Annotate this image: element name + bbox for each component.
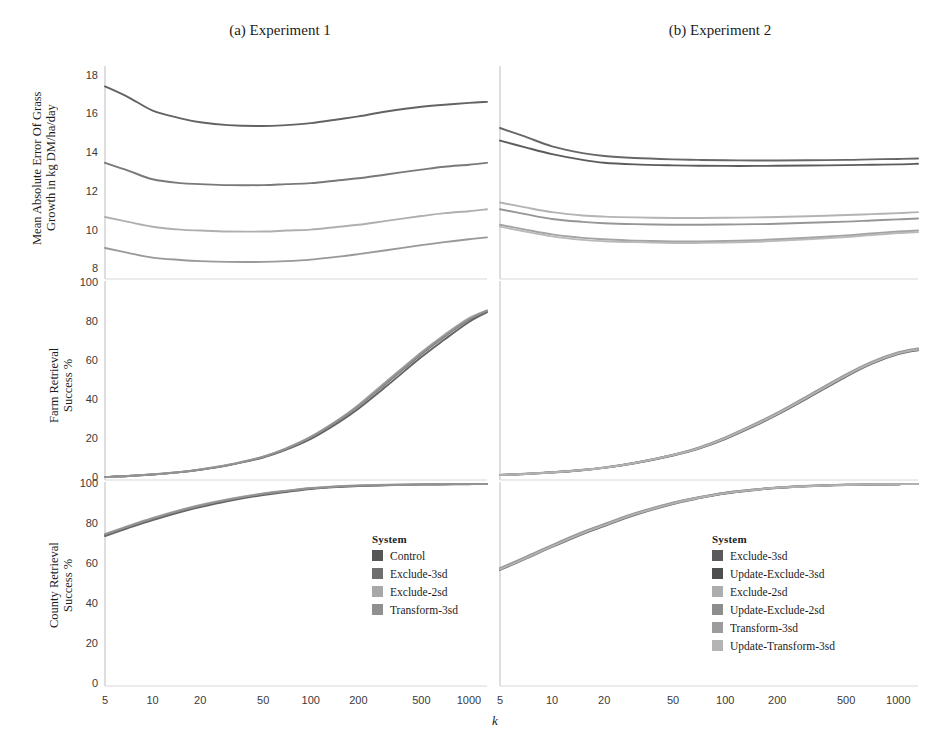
y-tick-mae: 14 bbox=[62, 146, 98, 158]
x-axis-label: k bbox=[492, 713, 498, 729]
series-line bbox=[105, 312, 487, 477]
y-tick-mae: 18 bbox=[62, 69, 98, 81]
legend-swatch-icon bbox=[712, 604, 723, 615]
legend-swatch-icon bbox=[712, 622, 723, 633]
legend-item[interactable]: Update-Exclude-2sd bbox=[712, 603, 835, 616]
legend-title: System bbox=[372, 533, 458, 545]
legend-swatch-icon bbox=[372, 604, 383, 615]
series-group bbox=[500, 348, 918, 475]
legend-label: Update-Transform-3sd bbox=[730, 640, 835, 652]
x-tick-b: 20 bbox=[598, 694, 610, 706]
legend-item[interactable]: Exclude-2sd bbox=[712, 585, 835, 598]
figure-container: (a) Experiment 1 (b) Experiment 2 Mean A… bbox=[0, 0, 932, 751]
legend-label: Transform-3sd bbox=[730, 622, 798, 634]
legend-swatch-icon bbox=[372, 568, 383, 579]
legend-items: Exclude-3sdUpdate-Exclude-3sdExclude-2sd… bbox=[712, 549, 835, 652]
legend-label: Exclude-3sd bbox=[730, 550, 787, 562]
legend-items: ControlExclude-3sdExclude-2sdTransform-3… bbox=[372, 549, 458, 616]
x-tick-b: 1000 bbox=[886, 694, 910, 706]
series-group bbox=[105, 310, 487, 477]
legend-label: Transform-3sd bbox=[390, 604, 458, 616]
y-tick-farm: 80 bbox=[62, 315, 98, 327]
y-tick-county: 0 bbox=[62, 677, 98, 689]
legend-swatch-icon bbox=[712, 568, 723, 579]
legend-item[interactable]: Transform-3sd bbox=[372, 603, 458, 616]
series-line bbox=[500, 349, 918, 475]
series-line bbox=[105, 311, 487, 477]
series-line bbox=[500, 348, 918, 475]
y-tick-mae: 16 bbox=[62, 107, 98, 119]
legend-item[interactable]: Update-Transform-3sd bbox=[712, 639, 835, 652]
legend-label: Update-Exclude-2sd bbox=[730, 604, 825, 616]
series-line bbox=[105, 311, 487, 477]
y-tick-county: 40 bbox=[62, 597, 98, 609]
legend-swatch-icon bbox=[712, 586, 723, 597]
legend-label: Exclude-2sd bbox=[730, 586, 787, 598]
y-tick-farm: 40 bbox=[62, 393, 98, 405]
legend-experiment-1: System ControlExclude-3sdExclude-2sdTran… bbox=[372, 533, 458, 621]
series-group bbox=[500, 128, 918, 243]
x-tick-b: 500 bbox=[837, 694, 855, 706]
x-tick-b: 200 bbox=[768, 694, 786, 706]
series-line bbox=[105, 163, 487, 185]
series-line bbox=[105, 310, 487, 477]
series-line bbox=[500, 225, 918, 242]
legend-item[interactable]: Exclude-3sd bbox=[372, 567, 458, 580]
series-line bbox=[500, 349, 918, 475]
legend-label: Exclude-2sd bbox=[390, 586, 447, 598]
y-tick-county: 100 bbox=[62, 477, 98, 489]
x-tick-a: 50 bbox=[257, 694, 269, 706]
x-tick-a: 10 bbox=[146, 694, 158, 706]
series-line bbox=[500, 203, 918, 219]
legend-label: Control bbox=[390, 550, 425, 562]
y-tick-farm: 20 bbox=[62, 432, 98, 444]
legend-item[interactable]: Exclude-3sd bbox=[712, 549, 835, 562]
y-axis-title-mae: Mean Absolute Error Of Grass Growth in k… bbox=[30, 62, 58, 274]
series-line bbox=[105, 484, 487, 536]
series-group bbox=[105, 86, 487, 262]
legend-swatch-icon bbox=[372, 550, 383, 561]
x-tick-b: 5 bbox=[497, 694, 503, 706]
x-tick-b: 50 bbox=[667, 694, 679, 706]
y-tick-mae: 10 bbox=[62, 224, 98, 236]
series-line bbox=[500, 141, 918, 166]
series-group bbox=[105, 484, 487, 536]
legend-swatch-icon bbox=[372, 586, 383, 597]
y-tick-farm: 100 bbox=[62, 276, 98, 288]
x-tick-a: 5 bbox=[102, 694, 108, 706]
legend-item[interactable]: Control bbox=[372, 549, 458, 562]
legend-experiment-2: System Exclude-3sdUpdate-Exclude-3sdExcl… bbox=[712, 533, 835, 657]
series-line bbox=[105, 86, 487, 126]
x-tick-a: 500 bbox=[412, 694, 430, 706]
legend-swatch-icon bbox=[712, 640, 723, 651]
x-tick-a: 20 bbox=[194, 694, 206, 706]
series-line bbox=[500, 349, 918, 475]
x-tick-a: 100 bbox=[302, 694, 320, 706]
series-line bbox=[105, 209, 487, 231]
panel-title-experiment-1: (a) Experiment 1 bbox=[229, 22, 331, 39]
legend-title: System bbox=[712, 533, 835, 545]
x-tick-b: 10 bbox=[546, 694, 558, 706]
legend-label: Exclude-3sd bbox=[390, 568, 447, 580]
panel-title-experiment-2: (b) Experiment 2 bbox=[669, 22, 771, 39]
series-group bbox=[500, 484, 918, 570]
x-tick-b: 100 bbox=[716, 694, 734, 706]
legend-swatch-icon bbox=[712, 550, 723, 561]
x-tick-a: 200 bbox=[349, 694, 367, 706]
series-line bbox=[500, 484, 918, 569]
y-tick-county: 80 bbox=[62, 517, 98, 529]
legend-item[interactable]: Transform-3sd bbox=[712, 621, 835, 634]
legend-item[interactable]: Exclude-2sd bbox=[372, 585, 458, 598]
legend-label: Update-Exclude-3sd bbox=[730, 568, 825, 580]
y-tick-mae: 8 bbox=[62, 262, 98, 274]
y-tick-mae: 12 bbox=[62, 185, 98, 197]
series-line bbox=[105, 237, 487, 262]
y-tick-farm: 60 bbox=[62, 354, 98, 366]
y-tick-county: 20 bbox=[62, 637, 98, 649]
y-tick-county: 60 bbox=[62, 557, 98, 569]
series-line bbox=[500, 350, 918, 475]
x-tick-a: 1000 bbox=[457, 694, 481, 706]
legend-item[interactable]: Update-Exclude-3sd bbox=[712, 567, 835, 580]
